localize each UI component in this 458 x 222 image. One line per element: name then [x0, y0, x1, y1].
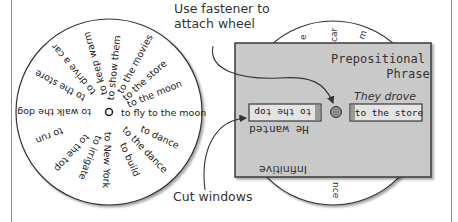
fastener-callout: Use fastener to attach wheel: [174, 1, 270, 31]
windows-callout: Cut windows: [173, 189, 252, 204]
back-wheel-fragment: nce: [331, 182, 341, 199]
prep-label: They drove: [354, 90, 416, 103]
wheel-phrase: to walk the dog: [17, 107, 91, 118]
inf-window: to the top: [249, 104, 321, 121]
back-wheel-fragment: e: [298, 34, 308, 40]
phrase-card: Prepositional Phrase They drove to the s…: [235, 43, 431, 177]
card-title-line1: Prepositional: [331, 52, 425, 66]
back-wheel-fragment: car: [329, 28, 339, 42]
fastener-icon: [331, 107, 342, 118]
inf-label: He wanted: [249, 123, 309, 136]
prep-window: to the store: [350, 104, 424, 121]
prep-window-text: to the store: [355, 107, 424, 118]
wheel-phrase: to New York: [101, 132, 114, 189]
wheel-phrase: to fly to the moon: [121, 107, 206, 118]
inf-title: Infinitive: [259, 163, 307, 176]
wheel-center-hole: [106, 109, 113, 116]
card-title-line2: Phrase: [386, 67, 429, 81]
front-wheel: to fly to the moonto the moonto the stor…: [16, 19, 206, 205]
inf-window-text: to the top: [254, 107, 311, 118]
